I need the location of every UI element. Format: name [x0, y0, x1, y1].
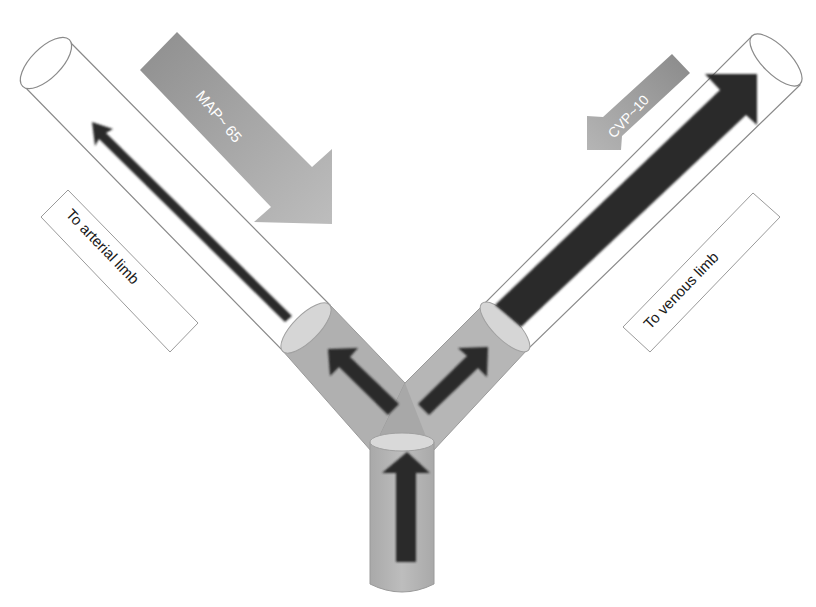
bottom-tube-top-opening [370, 433, 434, 451]
cannula-flow-diagram: MAP~ 65 CVP~10 To arterial limb To venou… [0, 0, 816, 607]
